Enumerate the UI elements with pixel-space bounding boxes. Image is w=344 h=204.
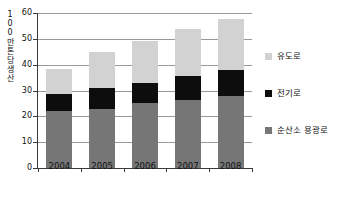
y-axis-title-char: 톤 <box>2 47 18 56</box>
legend-item[interactable]: 전기로 <box>265 83 301 95</box>
y-tick-label: 50 <box>16 35 32 43</box>
y-tick-label: 20 <box>16 112 32 120</box>
y-tick-label: 30 <box>16 87 32 95</box>
x-tick-label: 2005 <box>82 161 122 171</box>
bar-segment[interactable] <box>132 83 158 104</box>
bar-segment[interactable] <box>46 94 72 111</box>
y-tick-label: 10 <box>16 138 32 146</box>
stacked-bar-chart: 100만톤당생산 0102030405060 20042005200620072… <box>0 0 344 204</box>
y-tick-label: 60 <box>16 9 32 17</box>
x-tick-label: 2008 <box>211 161 251 171</box>
y-tick-label: 40 <box>16 61 32 69</box>
bar-segment[interactable] <box>46 111 72 168</box>
bar-segment[interactable] <box>218 96 244 168</box>
y-axis-title-char: 0 <box>2 19 18 28</box>
bar-segment[interactable] <box>132 103 158 168</box>
legend-label: 순산소 용광로 <box>277 126 328 135</box>
bar-segment[interactable] <box>175 100 201 168</box>
bar-segment[interactable] <box>89 88 115 109</box>
bar-segment[interactable] <box>89 109 115 168</box>
bar-segment[interactable] <box>132 41 158 82</box>
bar-segment[interactable] <box>218 19 244 69</box>
gridline <box>38 13 252 14</box>
bar-segment[interactable] <box>175 29 201 77</box>
bar-segment[interactable] <box>89 52 115 88</box>
legend-item[interactable]: 유도로 <box>265 46 301 58</box>
bar-segment[interactable] <box>46 69 72 95</box>
legend-label: 전기로 <box>277 89 301 98</box>
legend-item[interactable]: 순산소 용광로 <box>265 120 328 132</box>
bar-segment[interactable] <box>175 76 201 99</box>
legend-label: 유도로 <box>277 52 301 61</box>
plot-area <box>38 13 252 168</box>
legend-swatch-icon <box>265 90 272 97</box>
x-tick-label: 2007 <box>168 161 208 171</box>
legend-swatch-icon <box>265 53 272 60</box>
x-tick-label: 2004 <box>39 161 79 171</box>
bar-segment[interactable] <box>218 70 244 96</box>
legend-swatch-icon <box>265 127 272 134</box>
x-tick-label: 2006 <box>125 161 165 171</box>
y-axis-title-char: 산 <box>2 74 18 83</box>
y-tick-label: 0 <box>16 164 32 172</box>
x-tick-mark <box>252 168 253 172</box>
